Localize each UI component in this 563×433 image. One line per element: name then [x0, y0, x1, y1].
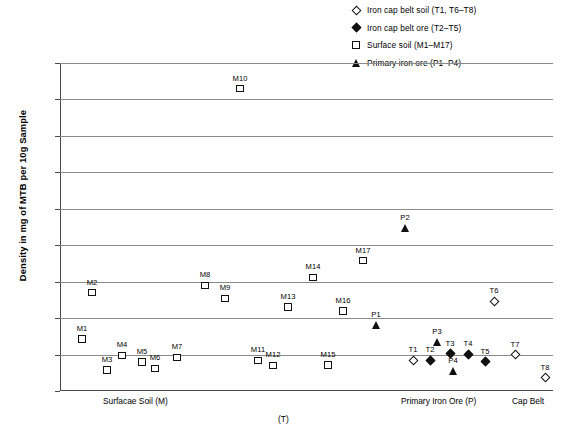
legend-item-label: Surface soil (M1–M17)	[367, 38, 453, 52]
square-open-marker	[324, 361, 332, 369]
x-category-label: Surfacae Soil (M)	[103, 396, 168, 406]
data-point-label: P1	[371, 310, 380, 319]
diamond-open-marker	[510, 350, 520, 360]
legend-marker	[349, 38, 363, 52]
data-point-label: P4	[448, 356, 457, 365]
plot-area: 05001,0001,5002,0002,5003,0003,5004,0004…	[60, 63, 553, 391]
square-open-marker	[221, 295, 229, 303]
data-point-label: M7	[172, 342, 183, 351]
data-point-label: T5	[481, 347, 490, 356]
legend-marker	[349, 3, 363, 17]
diamond-open-marker	[408, 355, 418, 365]
data-point-label: M6	[150, 353, 161, 362]
square-open-marker	[352, 41, 360, 49]
data-point-label: M13	[281, 292, 296, 301]
x-axis-sub-label: (T)	[278, 414, 289, 424]
data-point-label: T3	[446, 339, 455, 348]
y-axis-tick	[55, 282, 60, 283]
y-axis-tick	[55, 318, 60, 319]
data-point-label: P2	[400, 213, 409, 222]
data-point-label: M10	[233, 74, 248, 83]
data-point-label: M14	[306, 262, 321, 271]
gridline	[60, 318, 553, 319]
legend-marker	[349, 21, 363, 35]
square-open-marker	[201, 282, 209, 290]
legend-item-label: Iron cap belt ore (T2–T5)	[367, 21, 461, 35]
gridline	[60, 136, 553, 137]
square-open-marker	[173, 354, 181, 362]
data-point-label: T7	[511, 340, 520, 349]
data-point-label: M1	[77, 324, 88, 333]
triangle-filled-marker	[372, 321, 380, 329]
square-open-marker	[138, 358, 146, 366]
legend-item: Iron cap belt ore (T2–T5)	[349, 21, 561, 35]
data-point-label: T1	[409, 345, 418, 354]
diamond-filled-marker	[480, 357, 490, 367]
data-point-label: M4	[117, 340, 128, 349]
square-open-marker	[236, 85, 244, 93]
y-axis-tick	[55, 136, 60, 137]
x-axis-line	[60, 390, 553, 391]
gridline	[60, 63, 553, 64]
y-axis-line	[60, 63, 61, 391]
square-open-marker	[118, 352, 126, 360]
gridline	[60, 355, 553, 356]
triangle-filled-marker	[433, 338, 441, 346]
data-point-label: T2	[426, 345, 435, 354]
gridline	[60, 99, 553, 100]
data-point-label: T6	[490, 286, 499, 295]
square-open-marker	[88, 289, 96, 297]
y-axis-tick	[55, 172, 60, 173]
square-open-marker	[309, 274, 317, 282]
data-point-label: M11	[251, 345, 265, 354]
y-axis-tick	[55, 99, 60, 100]
square-open-marker	[254, 357, 262, 365]
square-open-marker	[103, 366, 111, 374]
data-point-label: T8	[541, 363, 550, 372]
gridline	[60, 282, 553, 283]
gridline	[60, 245, 553, 246]
data-point-label: T4	[464, 339, 473, 348]
data-point-label: M8	[200, 270, 211, 279]
gridline	[60, 172, 553, 173]
data-point-label: P3	[432, 327, 441, 336]
legend-item: Iron cap belt soil (T1, T6–T8)	[349, 3, 561, 17]
diamond-open-marker	[489, 296, 499, 306]
y-axis-title: Density in mg of MTB per 10g Sample	[17, 71, 28, 321]
y-axis-tick	[55, 391, 60, 392]
y-axis-tick	[55, 209, 60, 210]
data-point-label: M9	[220, 283, 231, 292]
legend-item: Surface soil (M1–M17)	[349, 38, 561, 52]
diamond-open-marker	[351, 5, 361, 15]
chart-canvas: Iron cap belt soil (T1, T6–T8)Iron cap b…	[0, 0, 563, 433]
square-open-marker	[359, 257, 367, 265]
triangle-filled-marker	[449, 367, 457, 375]
square-open-marker	[269, 362, 277, 370]
square-open-marker	[151, 365, 159, 373]
diamond-open-marker	[540, 373, 550, 383]
diamond-filled-marker	[351, 23, 361, 33]
x-category-label: Cap Belt	[512, 396, 544, 406]
data-point-label: M15	[321, 350, 336, 359]
y-axis-tick	[55, 63, 60, 64]
gridline	[60, 209, 553, 210]
square-open-marker	[284, 303, 292, 311]
data-point-label: M3	[102, 355, 113, 364]
y-axis-tick	[55, 245, 60, 246]
y-axis-tick	[55, 355, 60, 356]
triangle-filled-marker	[401, 224, 409, 232]
diamond-filled-marker	[463, 349, 473, 359]
data-point-label: M16	[336, 296, 351, 305]
square-open-marker	[339, 307, 347, 315]
data-point-label: M12	[266, 350, 281, 359]
data-point-label: M17	[356, 246, 371, 255]
diamond-filled-marker	[425, 355, 435, 365]
data-point-label: M5	[137, 347, 148, 356]
x-category-label: Primary Iron Ore (P)	[401, 396, 476, 406]
legend-item-label: Iron cap belt soil (T1, T6–T8)	[367, 3, 476, 17]
data-point-label: M2	[87, 278, 98, 287]
square-open-marker	[78, 335, 86, 343]
